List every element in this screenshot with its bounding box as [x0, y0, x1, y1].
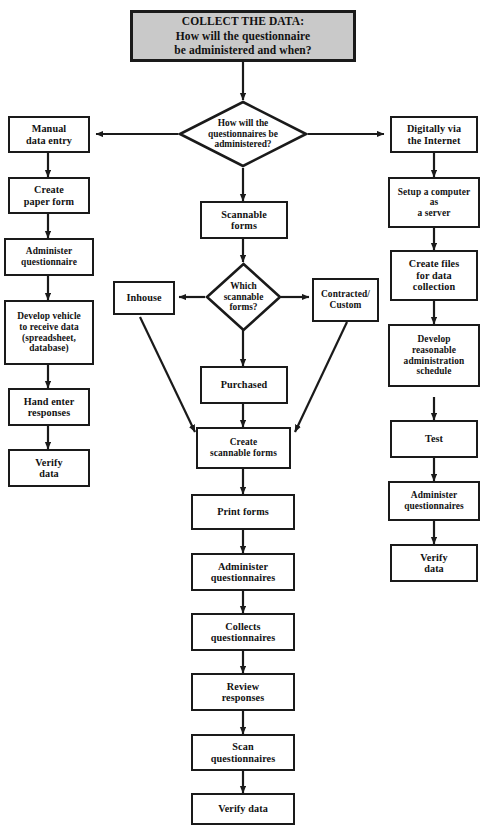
decision-which-scannable: Which scannable forms?: [205, 262, 282, 332]
node-line-1: Administer: [409, 490, 459, 501]
node-line-1: Review: [225, 681, 261, 692]
node-line-2: questionnaires: [209, 572, 278, 583]
node-line-1: Setup a computer: [396, 187, 472, 198]
decision-which-line-3: forms?: [229, 302, 257, 313]
node-manual-data-entry: Manual data entry: [8, 116, 90, 153]
node-line-2: responses: [220, 692, 267, 703]
node-line-3: (spreadsheet,: [20, 333, 78, 344]
node-line-4: database): [27, 343, 70, 354]
node-line-1: Administer: [24, 246, 74, 257]
node-line-1: Test: [423, 433, 445, 444]
node-line-1: Develop: [416, 334, 453, 345]
title-line-2: How will the questionnaire: [174, 29, 312, 43]
node-line-1: Collects: [223, 621, 262, 632]
node-line-1: Create: [228, 437, 260, 448]
decision-how-line-2: questionnaires be: [208, 129, 278, 140]
node-review-responses: Review responses: [191, 673, 295, 711]
node-line-1: Contracted/: [319, 289, 372, 300]
node-line-1: Scannable: [219, 209, 269, 220]
node-hand-enter-responses: Hand enter responses: [8, 388, 90, 426]
node-line-1: Digitally via: [405, 123, 463, 134]
node-line-3: a server: [416, 208, 453, 219]
node-verify-data-right: Verify data: [390, 544, 478, 582]
title-line-3: be administered and when?: [172, 43, 313, 57]
node-line-2: questionnaire: [19, 257, 79, 268]
title-line-1: COLLECT THE DATA:: [180, 14, 306, 28]
node-line-2: forms: [229, 220, 259, 231]
node-administer-questionnaires-right: Administer questionnaires: [388, 481, 480, 521]
node-line-1: Create files: [407, 258, 462, 269]
node-verify-data-center: Verify data: [191, 793, 295, 825]
node-line-2: paper form: [22, 196, 76, 207]
node-line-1: Verify: [418, 552, 449, 563]
node-administer-questionnaires-center: Administer questionnaires: [191, 553, 295, 591]
node-line-2: for data: [414, 270, 453, 281]
node-create-scannable-forms: Create scannable forms: [196, 427, 291, 469]
node-line-2: scannable forms: [208, 448, 279, 459]
decision-how-administered: How will the questionnaires be administe…: [178, 100, 308, 168]
node-line-2: questionnaires: [209, 632, 278, 643]
node-setup-computer-server: Setup a computer as a server: [388, 177, 480, 228]
node-line-1: Develop vehicle: [15, 311, 83, 322]
node-line-1: Manual: [30, 123, 69, 134]
title-box: COLLECT THE DATA: How will the questionn…: [130, 10, 356, 62]
node-collects-questionnaires: Collects questionnaires: [191, 613, 295, 651]
node-line-2: data: [422, 563, 446, 574]
node-line-2: to receive data: [17, 322, 81, 333]
decision-how-line-1: How will the: [218, 118, 269, 129]
node-line-1: Scan: [230, 741, 255, 752]
node-line-1: Verify data: [216, 803, 270, 814]
node-develop-vehicle: Develop vehicle to receive data (spreads…: [4, 300, 94, 365]
node-inhouse: Inhouse: [113, 281, 175, 315]
node-line-2: responses: [26, 407, 73, 418]
node-verify-data-left: Verify data: [8, 449, 90, 487]
node-line-2: reasonable: [410, 345, 458, 356]
decision-which-line-1: Which: [230, 281, 257, 292]
node-administer-questionnaire: Administer questionnaire: [4, 238, 94, 276]
node-line-1: Create: [32, 184, 66, 195]
node-line-2: data: [37, 468, 61, 479]
flowchart-canvas: COLLECT THE DATA: How will the questionn…: [0, 0, 488, 829]
node-line-2: questionnaires: [402, 501, 466, 512]
node-line-3: administration: [402, 356, 467, 367]
node-line-1: Print forms: [215, 506, 271, 517]
node-line-1: Purchased: [219, 379, 270, 390]
node-line-4: schedule: [414, 366, 453, 377]
node-line-1: Administer: [216, 561, 270, 572]
node-create-paper-form: Create paper form: [8, 177, 90, 214]
node-purchased: Purchased: [200, 366, 288, 404]
node-line-1: Verify: [33, 457, 64, 468]
node-line-2: the Internet: [406, 135, 463, 146]
node-create-files-data-collection: Create files for data collection: [390, 250, 478, 301]
decision-how-line-3: administered?: [214, 139, 271, 150]
decision-which-line-2: scannable: [224, 292, 264, 303]
node-line-2: data entry: [24, 135, 74, 146]
node-develop-schedule: Develop reasonable administration schedu…: [388, 324, 480, 387]
node-scannable-forms: Scannable forms: [200, 201, 288, 239]
node-line-2: Custom: [328, 300, 364, 311]
node-test: Test: [390, 420, 478, 458]
node-line-3: collection: [411, 281, 457, 292]
node-line-2: as: [428, 197, 441, 208]
node-line-2: questionnaires: [209, 753, 278, 764]
node-contracted-custom: Contracted/ Custom: [312, 278, 379, 322]
node-print-forms: Print forms: [191, 494, 295, 530]
node-digitally-via-internet: Digitally via the Internet: [390, 116, 478, 153]
node-scan-questionnaires: Scan questionnaires: [191, 734, 295, 771]
node-line-1: Hand enter: [22, 396, 77, 407]
node-line-1: Inhouse: [124, 292, 163, 303]
